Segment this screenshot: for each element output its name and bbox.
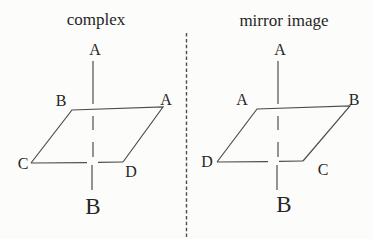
right-title: mirror image — [239, 12, 328, 29]
right-corner-label-bottom-right: C — [318, 162, 329, 178]
figure-lines — [0, 0, 373, 239]
left-parallelogram-edges — [31, 107, 163, 163]
left-axis-top-label: A — [89, 42, 101, 58]
right-parallelogram-edges — [217, 106, 350, 162]
left-title: complex — [67, 11, 126, 28]
left-corner-label-top-left: B — [56, 93, 67, 109]
left-corner-label-top-right: A — [160, 92, 172, 108]
right-corner-label-top-right: B — [349, 92, 360, 108]
right-axis-top-label: A — [274, 42, 286, 58]
left-corner-label-bottom-left: C — [18, 156, 29, 172]
left-corner-label-bottom-right: D — [125, 164, 137, 180]
right-axis-bottom-label: B — [276, 193, 291, 216]
right-mirror-drawing — [217, 61, 350, 190]
right-corner-label-top-left: A — [236, 92, 248, 108]
right-corner-label-bottom-left: D — [201, 154, 213, 170]
left-axis-bottom-label: B — [85, 195, 100, 218]
left-complex-drawing — [31, 61, 163, 190]
chirality-figure: complex A B A C D B mirror image A A B D… — [0, 0, 373, 239]
